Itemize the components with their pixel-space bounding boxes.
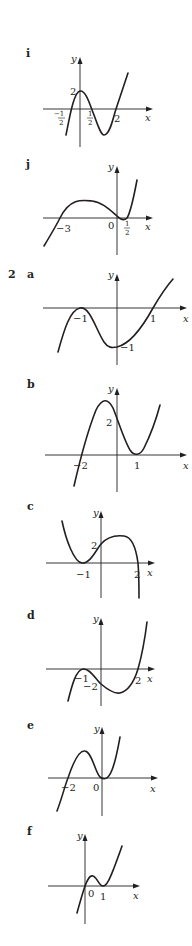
y-arrow-icon [115, 388, 120, 395]
x-axis-label: x [150, 783, 156, 794]
y-arrow-icon [99, 511, 104, 518]
y-intercept-label: 2 [106, 417, 112, 428]
x-arrow-icon [180, 453, 187, 458]
root-label-neg3: −3 [56, 223, 71, 234]
root-label-neg2: −2 [73, 460, 88, 471]
x-axis-label: x [147, 673, 153, 684]
root-label-half-num: 1 [88, 110, 92, 118]
x-arrow-icon [146, 216, 153, 221]
y-axis-label: y [107, 269, 114, 280]
y-axis-label: y [93, 723, 100, 734]
y-axis-label: y [92, 507, 99, 518]
root-label-neg2: −2 [61, 782, 76, 793]
y-axis-label: y [107, 383, 114, 394]
x-arrow-icon [148, 667, 155, 672]
root-label-half-num: 1 [125, 220, 129, 228]
curve-2c [62, 521, 139, 598]
curve-2d [68, 622, 147, 701]
curve-2e [57, 737, 120, 811]
root-label-neg1: −1 [76, 569, 91, 580]
x-arrow-icon [146, 107, 153, 112]
x-arrow-icon [180, 306, 187, 311]
y-intercept-label: −1 [120, 342, 135, 353]
graph-j: y x −3 0 1 2 [0, 150, 192, 260]
x-axis-label: x [147, 567, 153, 578]
root-label-2: 2 [135, 675, 141, 686]
origin-label: 0 [93, 782, 99, 793]
root-label-2: 2 [134, 569, 140, 580]
y-arrow-icon [83, 834, 88, 841]
x-axis-label: x [183, 460, 189, 471]
curve-j [44, 180, 137, 246]
svg-text:2: 2 [88, 119, 92, 127]
y-intercept-label: 2 [91, 540, 97, 551]
svg-text:2: 2 [59, 119, 63, 127]
y-axis-label: y [70, 53, 77, 64]
x-axis-label: x [145, 221, 151, 232]
x-arrow-icon [148, 561, 155, 566]
y-intercept-label: −2 [83, 681, 98, 692]
curve-i [66, 73, 128, 135]
graph-i: y x 2 −1 2 1 2 2 [0, 0, 192, 160]
root-label-1: 1 [100, 891, 106, 902]
y-arrow-icon [100, 727, 105, 734]
graph-2a: y x −1 1 −1 [0, 260, 192, 380]
y-axis-label: y [76, 830, 83, 841]
x-axis-label: x [183, 313, 189, 324]
x-arrow-icon [133, 884, 140, 889]
curve-2f [77, 846, 122, 913]
x-arrow-icon [151, 776, 158, 781]
root-label-1: 1 [150, 313, 156, 324]
y-intercept-label: 2 [70, 86, 76, 97]
root-label-2: 2 [114, 113, 120, 124]
y-axis-label: y [107, 161, 114, 172]
root-label-1: 1 [134, 460, 140, 471]
graph-2e: y x −2 0 [0, 715, 192, 825]
x-axis-label: x [145, 112, 151, 123]
y-arrow-icon [78, 57, 83, 64]
x-axis-label: x [133, 890, 139, 901]
origin-label: 0 [88, 888, 94, 899]
y-arrow-icon [99, 618, 104, 625]
graph-2b: y x 2 −2 1 [0, 375, 192, 495]
y-axis-label: y [92, 613, 99, 624]
origin-label: 0 [108, 220, 114, 231]
root-label-neg1: −1 [73, 313, 88, 324]
y-arrow-icon [115, 166, 120, 173]
root-label-neg-half-num: −1 [54, 110, 64, 118]
graph-2f: y x 0 1 [0, 820, 192, 930]
graph-2d: y x −1 −2 2 [0, 605, 192, 715]
y-arrow-icon [115, 274, 120, 281]
svg-text:2: 2 [125, 229, 129, 237]
graph-2c: y x 2 −1 2 [0, 495, 192, 605]
